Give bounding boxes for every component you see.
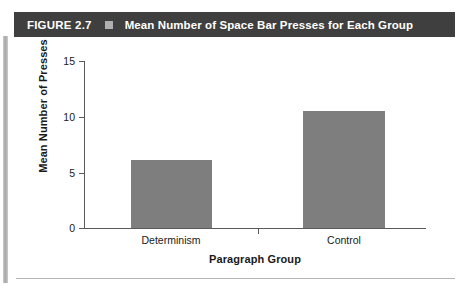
y-tick-mark [79,117,84,118]
x-tick-label-control: Control [274,234,414,246]
y-tick-label: 15 [45,55,75,67]
x-tick-label-determinism: Determinism [101,234,241,246]
x-tick-mark [258,229,259,234]
x-axis-title: Paragraph Group [84,253,426,265]
y-tick-label: 5 [45,167,75,179]
y-tick-mark [79,61,84,62]
bar-determinism [131,160,212,228]
chart-plot-area: Mean Number of Presses 15 10 5 0 Determi… [0,0,471,290]
y-tick-label: 10 [45,111,75,123]
bar-control [303,111,385,228]
y-tick-mark [79,228,84,229]
y-axis-line [84,61,85,229]
y-tick-mark [79,173,84,174]
x-axis-line [84,228,426,229]
y-tick-label: 0 [45,222,75,234]
bottom-divider [16,278,455,279]
